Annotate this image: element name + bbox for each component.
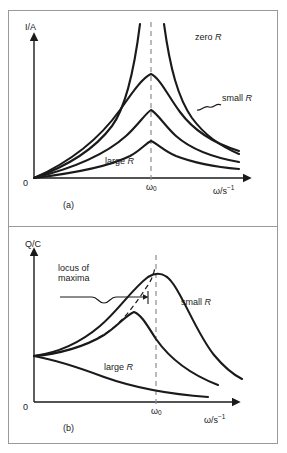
curve-medium-r <box>34 110 239 178</box>
locus-of-maxima-label: locus ofmaxima <box>58 263 90 284</box>
large-r-label-b: large R <box>104 362 133 372</box>
panel-label-b: (b) <box>63 423 74 433</box>
panel-b: Q/C 0 ω0 ω/s−1 locus ofmaxima small R la… <box>8 227 278 443</box>
origin-label-b: 0 <box>23 402 28 412</box>
x-axis-label-b: ω/s−1 <box>204 413 225 425</box>
curve-zero-r <box>34 24 140 178</box>
small-r-label-a: small R <box>222 93 252 103</box>
panel-b-plot <box>8 227 278 443</box>
x-axis-label-a: ω/s−1 <box>213 184 234 196</box>
large-r-label-a: large R <box>105 156 134 166</box>
small-r-label-b: small R <box>181 297 211 307</box>
zero-r-label: zero R <box>195 32 222 42</box>
resonance-figure: I/A 0 ω0 ω/s−1 zero R small R large R (a… <box>0 0 287 453</box>
resonance-tick-label-b: ω0 <box>151 406 162 416</box>
locus-leader-line <box>60 297 144 303</box>
panel-a-plot <box>8 10 278 226</box>
origin-label-a: 0 <box>23 178 28 188</box>
small-r-leader-a <box>197 104 221 110</box>
curve-large-r <box>34 141 239 178</box>
y-axis-label-b: Q/C <box>25 239 41 249</box>
y-axis-label-a: I/A <box>25 22 36 32</box>
panel-label-a: (a) <box>63 200 74 210</box>
panel-a: I/A 0 ω0 ω/s−1 zero R small R large R (a… <box>8 10 278 226</box>
resonance-tick-label-a: ω0 <box>146 182 157 192</box>
